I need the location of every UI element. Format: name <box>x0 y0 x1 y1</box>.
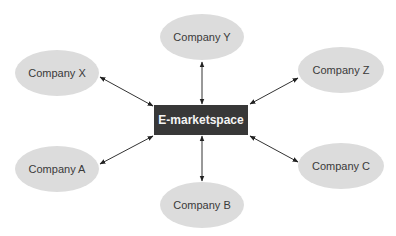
node-company-z: Company Z <box>298 47 384 93</box>
node-label: Company Y <box>173 31 230 43</box>
node-label: Company X <box>28 67 85 79</box>
edge-z-hub <box>250 78 298 104</box>
node-company-c: Company C <box>298 143 384 189</box>
node-company-b: Company B <box>160 182 244 228</box>
node-company-x: Company X <box>15 50 99 96</box>
hub-e-marketspace: E-marketspace <box>154 105 248 135</box>
edge-c-hub <box>250 136 298 162</box>
node-company-a: Company A <box>15 146 99 192</box>
node-label: Company A <box>29 163 86 175</box>
edge-a-hub <box>100 136 153 164</box>
node-label: Company B <box>173 199 230 211</box>
node-label: Company Z <box>313 64 370 76</box>
node-label: Company C <box>312 160 370 172</box>
node-company-y: Company Y <box>160 14 244 60</box>
hub-label: E-marketspace <box>158 113 243 127</box>
edge-x-hub <box>100 77 153 106</box>
